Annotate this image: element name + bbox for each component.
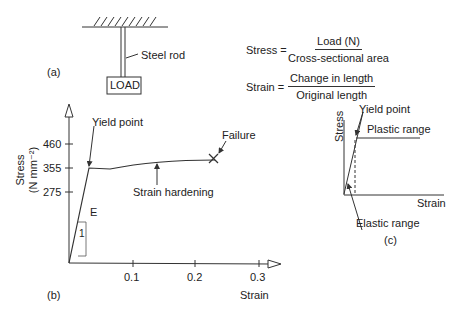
y-tick-355: 355 [43,163,61,174]
stress-numerator: Load (N) [315,35,362,50]
stress-formula-fraction: Load (N) Cross-sectional area [288,35,389,64]
failure-marker [209,154,218,163]
y-tick-275: 275 [43,187,61,198]
rod-leader-line [126,54,138,58]
x-axis-label-c: Strain [417,198,446,209]
x-tick-0.1: 0.1 [124,272,139,283]
stress-formula-lhs: Stress = [246,44,287,56]
panel-b-label: (b) [47,290,60,301]
failure-label: Failure [222,130,256,141]
elastic-range-label: Elastic range [356,218,420,229]
yield-point-label-c: Yield point [359,104,410,115]
y-axis-label-c: Stress [333,112,345,142]
y-axis-label-b: Stress [14,135,26,205]
x-tick-0.3: 0.3 [250,272,265,283]
steel-rod-label: Steel rod [141,50,185,61]
y-axis-unit-b: (N mm⁻²) [27,135,40,205]
panel-a-label: (a) [47,67,60,78]
elastic-line-c [344,112,363,194]
strain-formula-fraction: Change in length Original length [288,72,375,101]
panel-c-label: (c) [384,235,397,246]
failure-arrow [219,141,226,153]
y-tick-460: 460 [43,139,61,150]
yield-point-arrow-c [356,112,363,135]
load-label: LOAD [110,80,140,91]
plastic-range-label: Plastic range [367,124,431,135]
steel-rod [121,27,125,77]
modulus-label: E [90,207,97,218]
strain-numerator: Change in length [288,72,375,87]
stress-denominator: Cross-sectional area [288,50,389,64]
strain-denominator: Original length [296,87,367,101]
ceiling-support [82,17,168,27]
unit-run-label: 1 [79,229,85,239]
yield-point-arrow [89,126,94,166]
strain-formula-lhs: Strain = [246,81,284,93]
strain-hardening-label: Strain hardening [133,187,214,198]
x-tick-0.2: 0.2 [187,272,202,283]
yield-point-label: Yield point [92,117,143,128]
x-axis-label-b: Strain [240,290,269,301]
